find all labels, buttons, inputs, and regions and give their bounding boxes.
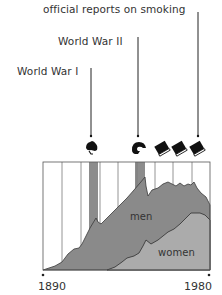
x-axis-end-marker	[208, 274, 211, 277]
book-icon	[189, 141, 205, 157]
annotation-ww2-label: World War II	[58, 35, 123, 47]
book-icon	[154, 141, 170, 157]
book-icon	[171, 141, 187, 157]
annotation-ww1-label: World War I	[17, 65, 78, 77]
x-axis-start-marker	[42, 274, 45, 277]
annotation-reports-label: official reports on smoking	[43, 3, 186, 15]
soldier-helmet-icon	[132, 142, 146, 154]
series-label-men: men	[130, 211, 153, 222]
annotation-leader-lines	[91, 12, 198, 135]
x-axis-label-start: 1890	[38, 280, 66, 293]
series-label-women: women	[158, 247, 195, 258]
soldier-helmet-icon	[86, 138, 97, 154]
x-axis-label-end: 1980	[184, 280, 212, 293]
